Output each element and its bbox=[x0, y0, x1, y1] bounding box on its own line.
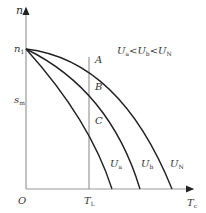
point-c: C bbox=[95, 115, 103, 126]
label-ub: Ub bbox=[141, 158, 153, 170]
diagram-canvas: n Tc O n1 sm TL A B C Ua Ub UN Ua<Ub<UN bbox=[0, 0, 206, 213]
y-axis-label: n bbox=[16, 4, 23, 17]
characteristic-diagram: n Tc O n1 sm TL A B C Ua Ub UN Ua<Ub<UN bbox=[0, 0, 206, 213]
point-b: B bbox=[94, 81, 102, 92]
tick-sm: sm bbox=[14, 94, 25, 106]
x-axis-label: Tc bbox=[187, 197, 198, 209]
origin-label: O bbox=[18, 195, 26, 206]
curve-ub bbox=[26, 49, 140, 189]
voltage-relation: Ua<Ub<UN bbox=[117, 45, 172, 57]
tick-n1: n1 bbox=[14, 43, 24, 55]
tick-tl: TL bbox=[84, 195, 95, 207]
label-ua: Ua bbox=[110, 158, 122, 170]
label-un: UN bbox=[170, 158, 184, 170]
point-a: A bbox=[94, 54, 102, 65]
